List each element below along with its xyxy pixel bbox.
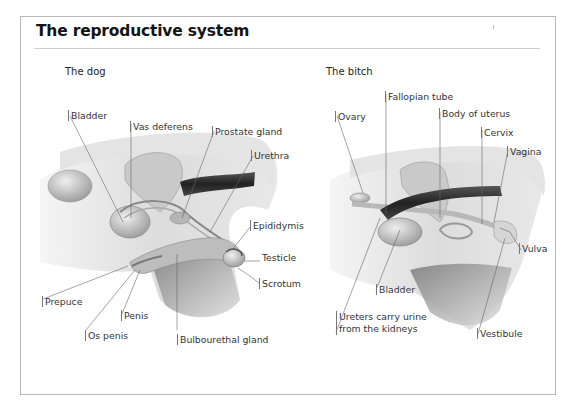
label-vagina: Vagina bbox=[507, 146, 541, 157]
label-ureters: Ureters carry urine from the kidneys bbox=[336, 311, 427, 335]
label-urethra: Urethra bbox=[251, 150, 289, 161]
label-cervix: Cervix bbox=[481, 127, 514, 138]
bitch-illustration bbox=[330, 146, 545, 330]
label-ovary: Ovary bbox=[335, 111, 366, 122]
label-prepuce: Prepuce bbox=[42, 296, 82, 307]
label-os-penis: Os penis bbox=[85, 330, 128, 341]
anatomy-illustration bbox=[0, 0, 569, 409]
label-bladder-bitch: Bladder bbox=[376, 284, 415, 295]
label-ureters-line1: Ureters carry urine bbox=[339, 311, 427, 323]
label-penis: Penis bbox=[121, 310, 148, 321]
label-vulva: Vulva bbox=[519, 243, 547, 254]
label-bladder-dog: Bladder bbox=[68, 110, 107, 121]
label-ureters-line2: from the kidneys bbox=[339, 323, 427, 335]
label-testicle: Testicle bbox=[262, 252, 296, 263]
label-scrotum: Scrotum bbox=[259, 278, 301, 289]
label-body-of-uterus: Body of uterus bbox=[439, 108, 510, 119]
label-vestibule: Vestibule bbox=[477, 328, 523, 339]
label-epididymis: Epididymis bbox=[250, 220, 304, 231]
label-fallopian-tube: Fallopian tube bbox=[385, 91, 453, 102]
label-prostate-gland: Prostate gland bbox=[212, 126, 282, 137]
label-bulbourethal-gland: Bulbourethal gland bbox=[177, 334, 268, 345]
label-vas-deferens: Vas deferens bbox=[130, 121, 193, 132]
dog-illustration bbox=[40, 133, 278, 317]
